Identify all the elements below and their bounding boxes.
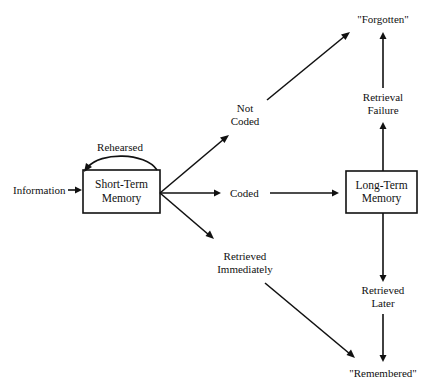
arrow-coded-to-ltm — [270, 190, 339, 197]
not-coded-label-line1: Not — [237, 102, 254, 114]
remembered-label: "Remembered" — [349, 367, 417, 379]
arrow-ltm-to-retrieved-later — [380, 213, 387, 282]
arrow-not-coded-to-forgotten — [267, 32, 350, 100]
arrow-stm-to-coded — [160, 190, 221, 197]
memory-flow-diagram: Information Short-Term Memory Rehearsed … — [0, 0, 430, 387]
arrow-retrieval-failure-to-forgotten — [380, 32, 387, 88]
ltm-label-line2: Memory — [362, 192, 402, 205]
rehearsed-label: Rehearsed — [97, 141, 143, 153]
long-term-memory-box: Long-Term Memory — [346, 171, 417, 213]
arrow-ltm-to-retrieval-failure — [380, 122, 387, 171]
retrieved-later-label-line2: Later — [371, 297, 395, 309]
arrow-retrieved-immediately-to-remembered — [265, 283, 355, 358]
arrow-stm-to-retrieved-immediately — [160, 193, 214, 239]
retrieval-failure-label-line1: Retrieval — [363, 91, 403, 103]
stm-label-line1: Short-Term — [95, 178, 148, 190]
retrieved-later-label-line1: Retrieved — [362, 284, 405, 296]
information-label: Information — [13, 184, 66, 196]
arrow-stm-to-not-coded — [160, 135, 229, 193]
retrieved-immediately-label-line1: Retrieved — [224, 250, 267, 262]
arrow-retrieved-later-to-remembered — [380, 314, 387, 362]
retrieved-immediately-label-line2: Immediately — [217, 263, 273, 275]
coded-label: Coded — [230, 187, 259, 199]
ltm-label-line1: Long-Term — [355, 179, 407, 192]
forgotten-label: "Forgotten" — [357, 13, 409, 25]
arrow-information-to-stm — [68, 187, 82, 194]
short-term-memory-box: Short-Term Memory — [83, 170, 160, 213]
stm-label-line2: Memory — [102, 192, 142, 205]
not-coded-label-line2: Coded — [231, 115, 260, 127]
retrieval-failure-label-line2: Failure — [367, 104, 398, 116]
